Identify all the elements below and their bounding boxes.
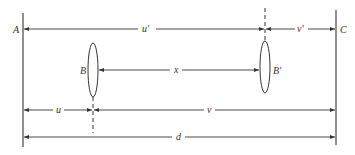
label-u-prime: u' [142, 23, 150, 34]
label-x: x [173, 64, 179, 75]
lens-B [88, 43, 98, 97]
label-v-prime: v' [297, 23, 304, 34]
lens-B-prime [260, 41, 270, 93]
label-A: A [12, 24, 20, 35]
label-u: u [56, 104, 61, 115]
label-C: C [340, 24, 347, 35]
lens-displacement-diagram: u' v' x u v d A C B B' [0, 0, 355, 155]
label-d: d [176, 131, 182, 142]
label-v: v [207, 104, 212, 115]
label-B: B [80, 65, 86, 76]
label-B-prime: B' [273, 65, 282, 76]
